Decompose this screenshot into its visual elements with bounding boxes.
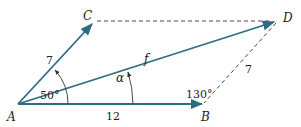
vector-diagram: A B C D 12 7 f 7 50° α 130°: [0, 0, 301, 127]
magnitude-label-ac: 7: [46, 54, 53, 67]
point-label-a: A: [6, 110, 16, 124]
side-bd-dashed: [204, 23, 276, 103]
magnitude-label-ab: 12: [106, 110, 120, 123]
magnitude-label-f: f: [143, 52, 151, 66]
point-label-d: D: [282, 11, 293, 25]
angle-arc-alpha: [128, 72, 133, 104]
point-label-b: B: [200, 110, 210, 124]
angle-label-130: 130°: [186, 88, 213, 101]
angle-label-50: 50°: [40, 89, 60, 102]
angle-label-alpha: α: [116, 71, 124, 85]
magnitude-label-bd: 7: [245, 63, 252, 76]
point-label-c: C: [83, 9, 92, 23]
